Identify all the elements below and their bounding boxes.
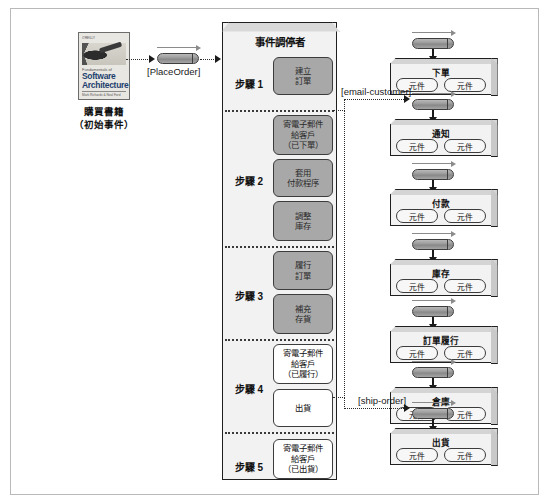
queue-payment[interactable] [412, 169, 454, 180]
service-1-depth-side [491, 58, 498, 96]
step-label-3: 步驟 3 [229, 288, 269, 303]
connector-ship-order-riser [344, 397, 345, 409]
queue-5-arrow-head [451, 298, 456, 304]
queue-notification[interactable] [412, 99, 454, 110]
connector-ship-order-horizontal [344, 408, 406, 409]
queue-6-arrow-shaft [412, 361, 451, 362]
queue-7-arrow-head [451, 400, 456, 406]
queue-inventory[interactable] [412, 239, 454, 250]
initiating-event-caption-line1: 購買書籍 [84, 106, 124, 117]
connector-book-to-placeorder [126, 59, 150, 60]
queue-shipping[interactable] [412, 408, 454, 419]
book-cover-art [82, 43, 126, 65]
service-7-component-1[interactable]: 元件 [396, 448, 438, 462]
mediator-fold [222, 22, 340, 32]
queue-2-arrow-head [451, 91, 456, 97]
step-separator-4 [225, 432, 334, 434]
event-mediator: 事件調停者 步驟 1 建立 訂單 步驟 2 寄電子郵件 給客戶 （已下單） 套用… [222, 22, 337, 480]
book-authors: Mark Richards & Neal Ford [82, 93, 126, 97]
service-6-depth-top [390, 387, 498, 393]
queue-7-flow-arrow [412, 399, 456, 406]
queue-warehouse[interactable] [412, 367, 454, 378]
diagram-canvas: O'REILLY Fundamentals of Software Archit… [0, 0, 549, 503]
service-payment: 付款 元件 元件 [390, 194, 492, 226]
step-label-1: 步驟 1 [229, 76, 269, 91]
task-create-order[interactable]: 建立 訂單 [273, 57, 333, 95]
step-separator-2 [225, 246, 334, 248]
service-4-component-1[interactable]: 元件 [396, 279, 438, 293]
book-title: Software Architecture [82, 72, 126, 90]
connector-email-customer-riser [344, 99, 345, 111]
mediator-title: 事件調停者 [223, 34, 336, 49]
task-ship[interactable]: 出貨 [273, 389, 333, 427]
step-label-5: 步驟 5 [229, 459, 269, 474]
service-5-depth-top [390, 326, 498, 332]
service-6-depth-side [491, 387, 498, 425]
service-1-title: 下單 [391, 66, 491, 78]
connector-email-customer-horizontal [344, 99, 406, 100]
task-email-customer-shipped[interactable]: 寄電子郵件 給客戶 （已出貨） [273, 439, 333, 479]
queue-6-arrow-head [451, 359, 456, 365]
queue-7-arrow-shaft [412, 402, 451, 403]
queue-order-fulfillment[interactable] [412, 306, 454, 317]
task-apply-payment[interactable]: 套用 付款程序 [273, 159, 333, 197]
service-7-depth-top [390, 428, 498, 434]
queue-3-flow-arrow [412, 160, 456, 167]
service-notification: 通知 元件 元件 [390, 124, 492, 156]
queue-2-flow-arrow [412, 90, 456, 97]
task-adjust-inventory[interactable]: 調整 庫存 [273, 201, 333, 241]
service-4-component-2[interactable]: 元件 [444, 279, 486, 293]
task-email-customer-placed[interactable]: 寄電子郵件 給客戶 （已下單） [273, 115, 333, 155]
service-5-depth-side [491, 326, 498, 364]
book-divider [82, 91, 126, 92]
task-email-customer-fulfilled[interactable]: 寄電子郵件 給客戶 （已履行） [273, 344, 333, 384]
task-fulfill-order[interactable]: 履行 訂單 [273, 251, 333, 290]
queue-5-arrow-shaft [412, 300, 451, 301]
initiating-event-group: O'REILLY Fundamentals of Software Archit… [68, 32, 140, 131]
service-3-title: 付款 [391, 197, 491, 209]
queue-3-arrow-shaft [412, 163, 451, 164]
service-7-component-2[interactable]: 元件 [444, 448, 486, 462]
queue-ship-order-label: [ship-order] [358, 395, 406, 406]
queue-email-customer-label: [email-customer] [341, 86, 411, 97]
initiating-event-caption-line2: （初始事件） [74, 119, 134, 130]
service-2-depth-side [491, 119, 498, 157]
queue-6-flow-arrow [412, 358, 456, 365]
queue-1-arrow-head [451, 30, 456, 36]
step-separator-3 [225, 339, 334, 341]
service-3-component-1[interactable]: 元件 [396, 209, 438, 223]
service-5-title: 訂單履行 [391, 334, 491, 346]
queue-4-flow-arrow [412, 230, 456, 237]
queue-5-flow-arrow [412, 297, 456, 304]
service-7-title: 出貨 [391, 436, 491, 448]
book-title-line2: Architecture [82, 80, 128, 90]
arrow-book-to-placeorder [149, 55, 155, 63]
queue-4-arrow-head [451, 231, 456, 237]
placeorder-arrow-shaft [157, 47, 196, 48]
service-1-depth-top [390, 58, 498, 64]
arrow-placeorder-to-mediator [215, 55, 221, 63]
step-label-2: 步驟 2 [229, 173, 269, 188]
service-2-component-2[interactable]: 元件 [444, 139, 486, 153]
service-2-component-1[interactable]: 元件 [396, 139, 438, 153]
queue-place-order-label: [PlaceOrder] [147, 66, 200, 77]
task-replenish-stock[interactable]: 補充 存貨 [273, 294, 333, 334]
service-4-title: 庫存 [391, 267, 491, 279]
service-7-depth-side [491, 428, 498, 466]
service-inventory: 庫存 元件 元件 [390, 264, 492, 296]
service-2-depth-top [390, 119, 498, 125]
queue-3-arrow-head [451, 161, 456, 167]
connector-placeorder-to-mediator [200, 59, 216, 60]
service-4-depth-top [390, 259, 498, 265]
service-3-depth-side [491, 189, 498, 227]
service-3-component-2[interactable]: 元件 [444, 209, 486, 223]
initiating-event-caption: 購買書籍 （初始事件） [68, 105, 140, 131]
queue-1-arrow-shaft [412, 32, 451, 33]
placeorder-arrow-head [196, 45, 201, 51]
book-cover-image: O'REILLY Fundamentals of Software Archit… [78, 32, 130, 100]
queue-place-order[interactable] [157, 53, 199, 64]
queue-order-placement[interactable] [412, 38, 454, 49]
queue-2-arrow-shaft [412, 93, 451, 94]
service-2-title: 通知 [391, 127, 491, 139]
service-3-depth-top [390, 189, 498, 195]
